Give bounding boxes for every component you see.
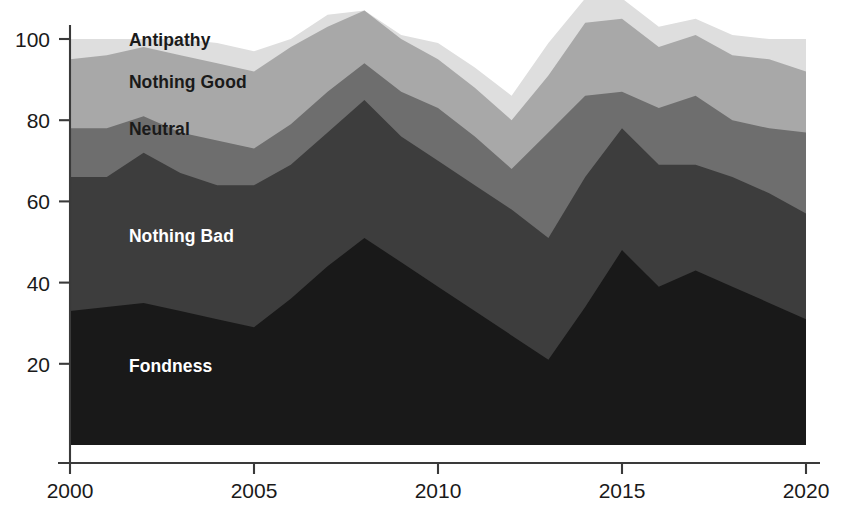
- y-tick-label: 100: [15, 28, 50, 51]
- x-tick-label: 2005: [231, 479, 278, 502]
- series-label-nothing-bad: Nothing Bad: [129, 226, 234, 246]
- x-tick-label: 2015: [599, 479, 646, 502]
- y-tick-label: 40: [27, 272, 50, 295]
- y-tick-label: 80: [27, 109, 50, 132]
- area-bands-group: [70, 0, 806, 445]
- series-label-antipathy: Antipathy: [129, 30, 211, 50]
- x-tick-label: 2010: [415, 479, 462, 502]
- y-tick-label: 20: [27, 353, 50, 376]
- series-label-fondness: Fondness: [129, 356, 213, 376]
- stacked-area-chart: 20406080100 20002005201020152020 Antipat…: [0, 0, 844, 524]
- series-label-neutral: Neutral: [129, 119, 190, 139]
- chart-canvas: 20406080100 20002005201020152020 Antipat…: [0, 0, 844, 524]
- y-tick-label: 60: [27, 190, 50, 213]
- series-label-nothing-good: Nothing Good: [129, 72, 247, 92]
- x-tick-label: 2000: [47, 479, 94, 502]
- x-tick-label: 2020: [783, 479, 830, 502]
